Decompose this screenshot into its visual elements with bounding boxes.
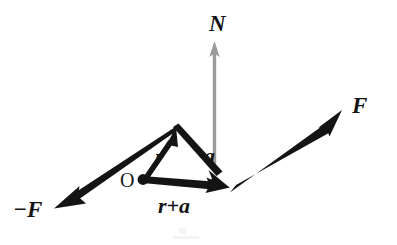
label-origin: O bbox=[120, 169, 134, 191]
scan-artifact-mark bbox=[173, 236, 199, 239]
label-r-plus-a: r+a bbox=[158, 193, 190, 218]
figure-background bbox=[0, 0, 397, 245]
label-minus-F: −F bbox=[13, 197, 42, 222]
label-a: a bbox=[204, 143, 215, 168]
vector-diagram-figure: N F −F r a r+a O bbox=[0, 0, 397, 245]
label-r: r bbox=[155, 144, 164, 169]
label-N: N bbox=[208, 11, 227, 36]
label-F: F bbox=[351, 93, 367, 118]
scan-artifact-mark-secondary bbox=[179, 228, 186, 234]
vector-diagram-canvas: N F −F r a r+a O bbox=[0, 0, 397, 245]
origin-point-dot bbox=[138, 174, 149, 185]
